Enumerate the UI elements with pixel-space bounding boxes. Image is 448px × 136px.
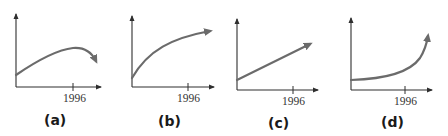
graph-b: 1996 (b) [132, 16, 214, 129]
curve-concave-up [351, 36, 428, 80]
panel-label-c: (c) [268, 115, 289, 131]
curve-concave-down [132, 31, 210, 78]
panel-label-d: (d) [381, 114, 404, 130]
graphs-figure: 1996 (a) 1996 (b) 1996 (c) 1996 (d) [0, 0, 448, 136]
graph-d: 1996 (d) [351, 18, 432, 130]
year-label: 1996 [63, 92, 86, 104]
panel-label-b: (b) [158, 113, 181, 129]
line-linear [237, 44, 310, 80]
curve-rise-then-fall [16, 48, 96, 75]
year-label: 1996 [177, 92, 200, 104]
graph-a: 1996 (a) [16, 14, 101, 128]
year-label: 1996 [394, 95, 417, 107]
graph-c: 1996 (c) [237, 19, 318, 131]
panel-label-a: (a) [44, 112, 66, 128]
year-label: 1996 [282, 95, 305, 107]
